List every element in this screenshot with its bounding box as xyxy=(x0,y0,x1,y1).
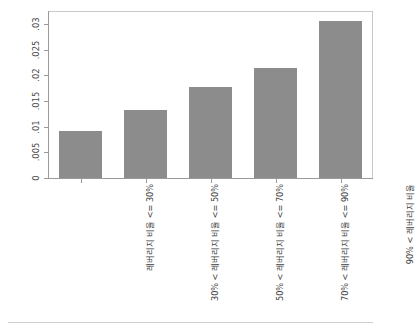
y-axis-tick-mark xyxy=(44,178,48,179)
x-axis-tick-mark xyxy=(81,179,82,183)
bar[interactable] xyxy=(124,110,167,178)
x-axis-tick-mark xyxy=(341,179,342,183)
x-axis-category-labels: 레버리지 비율 <= 30%30% < 레버리지 비율 <= 50%50% < … xyxy=(48,184,373,324)
bar[interactable] xyxy=(59,131,102,178)
y-axis-tick-mark xyxy=(44,75,48,76)
y-axis-tick-mark xyxy=(44,152,48,153)
y-axis-tick-label: .02 xyxy=(29,65,43,85)
x-axis-tick-mark xyxy=(211,179,212,183)
y-axis-tick-label: .005 xyxy=(29,142,43,162)
bar[interactable] xyxy=(319,21,362,178)
y-axis-tick-label: .01 xyxy=(29,117,43,137)
y-axis-tick-label: .025 xyxy=(29,40,43,60)
bottom-divider xyxy=(8,322,373,323)
y-axis-tick-mark xyxy=(44,101,48,102)
y-axis-tick-label: .015 xyxy=(29,91,43,111)
x-axis-tick-mark xyxy=(146,179,147,183)
y-axis-tick-mark xyxy=(44,127,48,128)
bar[interactable] xyxy=(254,68,297,178)
bar[interactable] xyxy=(189,87,232,178)
x-axis-category-label: 90% < 레버리지 비율 xyxy=(345,184,419,314)
x-axis-tick-mark xyxy=(276,179,277,183)
y-axis-tick-mark xyxy=(44,50,48,51)
bars-layer xyxy=(48,11,373,178)
y-axis-tick-mark xyxy=(44,24,48,25)
y-axis-tick-label: 0 xyxy=(29,168,43,188)
y-axis-tick-label: .03 xyxy=(29,14,43,34)
y-axis-title: 주택 자산 변화에 따른 한계 소비 성향 (자동차 구입의 경우) xyxy=(0,0,26,190)
y-axis-tick-labels: 0.005.01.015.02.025.03 xyxy=(26,0,46,200)
